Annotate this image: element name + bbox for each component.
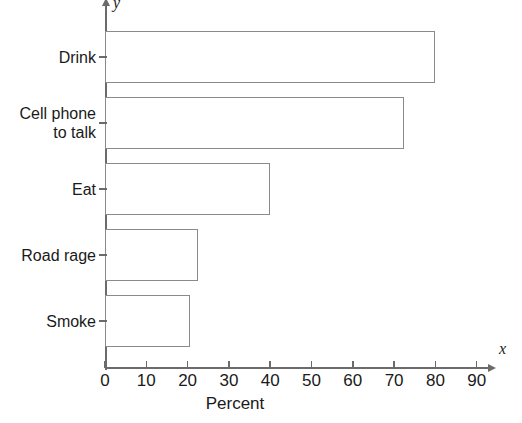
category-label-line: Smoke xyxy=(0,312,96,331)
y-axis-tick xyxy=(99,320,107,322)
x-axis-tick-label: 70 xyxy=(374,371,414,391)
x-axis-tick xyxy=(393,361,395,368)
bar-chart: y x DrinkCell phoneto talkEatRoad rageSm… xyxy=(0,0,522,423)
bar xyxy=(105,163,270,215)
x-axis-tick xyxy=(104,361,106,368)
x-axis-tick xyxy=(228,361,230,368)
category-label-line: to talk xyxy=(0,123,96,142)
y-axis-arrow-icon xyxy=(102,0,110,6)
x-axis-line xyxy=(105,367,490,369)
y-axis-tick xyxy=(99,188,107,190)
x-axis-tick xyxy=(269,361,271,368)
category-label-line: Cell phone xyxy=(0,104,96,123)
y-axis-category-label: Drink xyxy=(0,48,96,67)
category-label-line: Drink xyxy=(0,48,96,67)
y-axis-tick xyxy=(99,254,107,256)
x-axis-tick xyxy=(435,361,437,368)
y-axis-category-label: Smoke xyxy=(0,312,96,331)
y-axis-tick xyxy=(99,122,107,124)
bar xyxy=(105,31,435,83)
y-axis-category-label: Eat xyxy=(0,180,96,199)
category-label-line: Eat xyxy=(0,180,96,199)
x-axis-tick xyxy=(311,361,313,368)
bar xyxy=(105,97,404,149)
x-axis-tick-label: 20 xyxy=(168,371,208,391)
x-axis-tick-label: 30 xyxy=(209,371,249,391)
x-axis-tick-label: 80 xyxy=(415,371,455,391)
x-axis-tick-label: 50 xyxy=(292,371,332,391)
x-axis-title: Percent xyxy=(0,394,522,414)
bar xyxy=(105,295,190,347)
x-axis-tick-label: 60 xyxy=(333,371,373,391)
x-axis-tick xyxy=(187,361,189,368)
x-axis-tick xyxy=(476,361,478,368)
y-axis-category-label: Road rage xyxy=(0,246,96,265)
x-axis-tick-label: 40 xyxy=(250,371,290,391)
x-axis-tick-label: 10 xyxy=(126,371,166,391)
x-axis-tick xyxy=(352,361,354,368)
x-axis-variable-label: x xyxy=(499,340,506,358)
x-axis-tick-label: 0 xyxy=(85,371,125,391)
y-axis-category-label: Cell phoneto talk xyxy=(0,104,96,142)
x-axis-tick-label: 90 xyxy=(457,371,497,391)
y-axis-variable-label: y xyxy=(113,0,120,12)
x-axis-tick xyxy=(146,361,148,368)
bar xyxy=(105,229,198,281)
y-axis-tick xyxy=(99,56,107,58)
category-label-line: Road rage xyxy=(0,246,96,265)
